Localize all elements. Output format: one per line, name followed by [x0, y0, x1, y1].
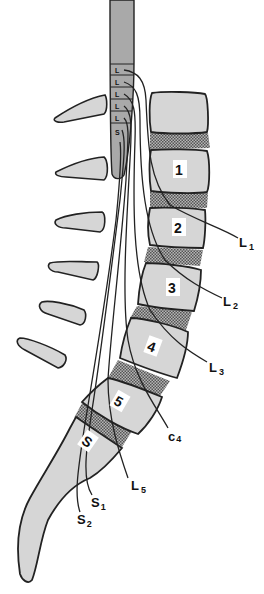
vertebra-label-3: 3: [168, 280, 176, 296]
cord-mark-6: S: [115, 129, 120, 136]
vertebra-label-2: 2: [174, 220, 182, 236]
disc-t12-l1: [150, 133, 210, 150]
disc-l1-l2: [150, 192, 208, 208]
spinous-process-5: [40, 301, 86, 325]
cord-mark-3: L: [115, 91, 120, 98]
spinous-process-1: [54, 95, 107, 122]
spinous-process-3: [55, 212, 105, 232]
label-s1: S1: [91, 495, 106, 512]
label-l3: L3: [209, 360, 224, 377]
label-l4: c4: [168, 429, 181, 444]
label-l1: L1: [239, 235, 254, 252]
vertebra-label-1: 1: [175, 162, 183, 178]
spinous-process-2: [56, 157, 108, 180]
label-l2: L2: [223, 294, 238, 311]
cord-mark-2: L: [115, 79, 120, 86]
spine-diagram: L L L L L S 1 2 3 4 5 S L1 L2 L3: [0, 0, 264, 594]
spinous-processes: [17, 95, 107, 368]
vertebra-t12: [150, 92, 208, 134]
label-s2: S2: [77, 512, 92, 529]
label-l5: L5: [131, 478, 146, 495]
cord-mark-5: L: [115, 115, 120, 122]
cord-mark-1: L: [115, 67, 120, 74]
spinous-process-6: [17, 338, 66, 368]
cord-mark-4: L: [115, 103, 120, 110]
sacrum: [18, 417, 122, 582]
spinous-process-4: [48, 261, 98, 280]
